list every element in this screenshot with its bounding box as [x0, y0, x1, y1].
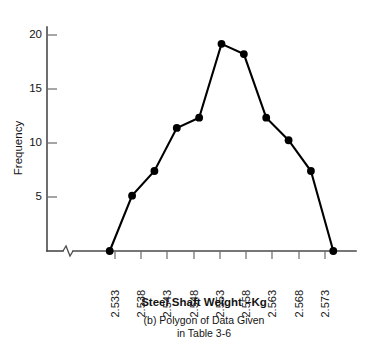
data-point — [106, 247, 114, 255]
y-tick-label-10: 10 — [29, 136, 42, 148]
data-point — [307, 167, 315, 175]
y-tick-label-15: 15 — [29, 82, 42, 94]
polygon-chart: 20 15 10 5 Frequency 2.533 2.538 2.543 2… — [0, 0, 380, 346]
data-point — [262, 114, 270, 122]
y-tick-group — [47, 35, 57, 197]
caption-line-2: in Table 3-6 — [177, 327, 231, 339]
data-point — [128, 192, 136, 200]
x-tick-group — [115, 251, 325, 259]
figure-container: 20 15 10 5 Frequency 2.533 2.538 2.543 2… — [0, 0, 380, 346]
x-axis-break-icon — [63, 246, 73, 256]
data-point — [285, 136, 293, 144]
caption-line-1: (b) Polygon of Data Given — [144, 314, 265, 326]
data-marker-group — [106, 40, 337, 255]
data-point — [173, 124, 181, 132]
y-tick-label-20: 20 — [29, 28, 42, 40]
data-point — [218, 40, 226, 48]
x-axis-title: Steel Shaft Weight –Kg — [141, 296, 267, 308]
data-point — [151, 167, 159, 175]
x-tick-label-8: 2.573 — [319, 290, 331, 318]
y-axis-title: Frequency — [12, 121, 24, 176]
x-tick-label-6: 2.563 — [266, 290, 278, 318]
data-point — [329, 247, 337, 255]
y-tick-label-5: 5 — [36, 190, 42, 202]
data-point — [195, 114, 203, 122]
x-tick-label-7: 2.568 — [293, 290, 305, 318]
x-tick-label-0: 2.533 — [109, 290, 121, 318]
frequency-polygon-line — [110, 44, 334, 251]
data-point — [240, 50, 248, 58]
